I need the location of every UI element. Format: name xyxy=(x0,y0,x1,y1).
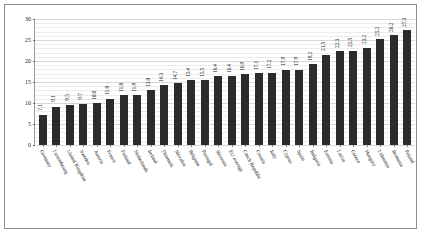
bar-value-label: 17.9 xyxy=(294,57,299,66)
y-axis-tick-label: 5 xyxy=(28,121,31,127)
category-slot: Bulgaria xyxy=(306,148,320,226)
bar[interactable]: 22.3 xyxy=(336,51,344,145)
bar[interactable]: 16.4 xyxy=(214,76,222,145)
category-slot: Netherlands xyxy=(130,148,144,226)
bar[interactable]: 21.5 xyxy=(322,55,330,145)
bar-slot: 15.5 xyxy=(198,19,212,145)
bar-slot: 22.5 xyxy=(347,19,361,145)
x-axis-tick-mark xyxy=(97,145,98,147)
bar[interactable]: 17.1 xyxy=(255,73,263,145)
plot-area: 051015202530 7.19.19.59.710.011.011.811.… xyxy=(34,19,415,146)
x-axis-tick-mark xyxy=(394,145,395,147)
bar[interactable]: 13.0 xyxy=(147,90,155,145)
bar-value-label: 15.4 xyxy=(186,68,191,77)
category-slot: Belgium xyxy=(184,148,198,226)
bar[interactable]: 9.1 xyxy=(52,107,60,145)
bar-value-label: 11.9 xyxy=(132,83,137,92)
bar[interactable]: 17.2 xyxy=(268,73,276,145)
bar[interactable]: 23.2 xyxy=(363,48,371,145)
x-axis-tick-mark xyxy=(178,145,179,147)
bar[interactable]: 11.9 xyxy=(133,95,141,145)
x-axis-tick-mark xyxy=(245,145,246,147)
y-axis-tick-label: 10 xyxy=(25,100,31,106)
x-axis-category-label: Spain xyxy=(295,149,305,162)
category-slot: Estonia xyxy=(319,148,333,226)
x-axis-category-label: Italy xyxy=(268,149,277,160)
category-slot: Denmark xyxy=(157,148,171,226)
bar[interactable]: 9.7 xyxy=(79,104,87,145)
bar-value-label: 23.2 xyxy=(361,35,366,44)
x-axis-tick-mark xyxy=(164,145,165,147)
chart-figure: 051015202530 7.19.19.59.710.011.011.811.… xyxy=(0,0,421,233)
category-slot: Greece xyxy=(346,148,360,226)
bar-slot: 19.2 xyxy=(306,19,320,145)
bar-slot: 7.1 xyxy=(36,19,50,145)
bar-value-label: 9.1 xyxy=(51,96,56,102)
bar[interactable]: 14.7 xyxy=(174,83,182,145)
bar-value-label: 9.7 xyxy=(78,93,83,99)
bar[interactable]: 16.4 xyxy=(228,76,236,145)
bar-slot: 16.4 xyxy=(212,19,226,145)
x-axis-tick-mark xyxy=(151,145,152,147)
bar-slot: 16.4 xyxy=(225,19,239,145)
bar-value-label: 16.4 xyxy=(226,64,231,73)
bar-slot: 15.4 xyxy=(185,19,199,145)
x-axis-tick-mark xyxy=(367,145,368,147)
bar[interactable]: 14.3 xyxy=(160,85,168,145)
bar-slot: 13.0 xyxy=(144,19,158,145)
bar[interactable]: 11.8 xyxy=(120,95,128,145)
bar[interactable]: 16.9 xyxy=(241,74,249,145)
bar-slot: 9.1 xyxy=(50,19,64,145)
bar[interactable]: 10.0 xyxy=(93,103,101,145)
bar[interactable]: 15.4 xyxy=(187,80,195,145)
bar-value-label: 11.0 xyxy=(105,86,110,95)
category-slot: Czech Republic xyxy=(238,148,252,226)
bar[interactable]: 22.5 xyxy=(349,51,357,146)
x-axis-tick-mark xyxy=(43,145,44,147)
bar-slot: 11.9 xyxy=(131,19,145,145)
category-slot: Croatia xyxy=(252,148,266,226)
category-slot: Italy xyxy=(265,148,279,226)
bar[interactable]: 11.0 xyxy=(106,99,114,145)
bar-slot: 9.7 xyxy=(77,19,91,145)
bar[interactable]: 17.9 xyxy=(282,70,290,145)
x-axis-tick-mark xyxy=(313,145,314,147)
category-slot: Ireland xyxy=(143,148,157,226)
bar-slot: 17.9 xyxy=(279,19,293,145)
bar[interactable]: 26.2 xyxy=(390,35,398,145)
x-axis-tick-mark xyxy=(137,145,138,147)
category-slot: United Kingdom xyxy=(62,148,76,226)
bar-slot: 11.8 xyxy=(117,19,131,145)
bar-slot: 17.1 xyxy=(252,19,266,145)
y-axis-tick-label: 20 xyxy=(25,58,31,64)
bar-slot: 10.0 xyxy=(90,19,104,145)
category-slot: Latvia xyxy=(333,148,347,226)
bar[interactable]: 19.2 xyxy=(309,64,317,145)
bar[interactable]: 25.2 xyxy=(376,39,384,145)
bar-slot: 14.3 xyxy=(158,19,172,145)
figure-border: 051015202530 7.19.19.59.710.011.011.811.… xyxy=(4,4,417,229)
category-slot: Spain xyxy=(292,148,306,226)
bar[interactable]: 9.5 xyxy=(66,105,74,145)
x-axis-tick-mark xyxy=(380,145,381,147)
bar-value-label: 19.2 xyxy=(307,52,312,61)
bar-value-label: 17.2 xyxy=(267,60,272,69)
bar-value-label: 17.9 xyxy=(280,57,285,66)
x-axis-tick-mark xyxy=(110,145,111,147)
bar[interactable]: 27.3 xyxy=(403,30,411,145)
bar-slot: 21.5 xyxy=(320,19,334,145)
bar[interactable]: 15.5 xyxy=(201,80,209,145)
x-axis-tick-mark xyxy=(272,145,273,147)
y-axis-tick-label: 0 xyxy=(28,142,31,148)
x-axis-category-labels: GermanyLuxembourgUnited KingdomSwedenAus… xyxy=(34,148,415,226)
bar[interactable]: 7.1 xyxy=(39,115,47,145)
y-axis-tick-label: 25 xyxy=(25,37,31,43)
category-slot: Slovenia xyxy=(211,148,225,226)
category-slot: Cyprus xyxy=(279,148,293,226)
category-slot: Finland xyxy=(116,148,130,226)
bar-value-label: 14.7 xyxy=(172,71,177,80)
bar-slot: 9.5 xyxy=(63,19,77,145)
x-axis-tick-mark xyxy=(83,145,84,147)
x-axis-tick-mark xyxy=(191,145,192,147)
bar[interactable]: 17.9 xyxy=(295,70,303,145)
